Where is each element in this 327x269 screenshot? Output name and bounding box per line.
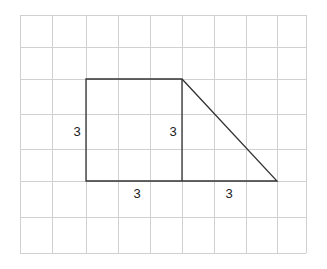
label-square-bottom: 3	[133, 187, 140, 200]
label-triangle-base: 3	[225, 187, 232, 200]
grid-diagram	[0, 0, 327, 269]
trapezoid-shape	[86, 79, 277, 181]
label-middle-side: 3	[169, 125, 176, 138]
grid-lines	[20, 15, 307, 254]
label-left-side: 3	[73, 125, 80, 138]
